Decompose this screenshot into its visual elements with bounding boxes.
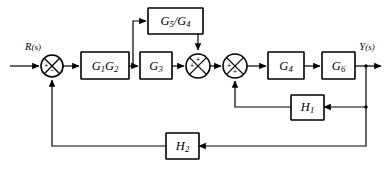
block-h2[interactable]: H2: [166, 133, 199, 159]
summing-junction-2-sign-west: +: [190, 62, 194, 69]
output-signal-label: Y(s): [359, 41, 374, 52]
io-label-layer: R(s) Y(s): [24, 41, 375, 52]
summing-junction-3-sign-west: +: [227, 62, 231, 69]
block-h1-sub: 1: [310, 105, 314, 115]
summing-junction-3[interactable]: + +: [223, 54, 247, 78]
block-g1-g2[interactable]: G1G2: [81, 52, 129, 79]
wire-h1-to-sum3: [235, 81, 291, 107]
block-g3-sub: 3: [157, 63, 162, 73]
junction-dot-g1g2-output: [131, 64, 134, 67]
wire-h2-to-sum1: [52, 80, 166, 146]
block-g4[interactable]: G4: [268, 52, 304, 79]
junction-dot-output-lower: [364, 105, 367, 108]
input-signal-label: R(s): [24, 41, 41, 52]
block-g4-label: G: [279, 58, 288, 72]
summing-junction-2-sign-north: +: [196, 56, 200, 63]
summing-junction-1-sign-south: −: [50, 67, 54, 74]
block-g5-over-g4[interactable]: G5/G4: [148, 8, 203, 34]
block-h1[interactable]: H1: [291, 95, 324, 120]
wire-output-to-h2: [199, 107, 366, 146]
summing-junction-2[interactable]: + +: [186, 54, 210, 78]
block-g6[interactable]: G6: [322, 52, 355, 79]
summing-junction-3-sign-south: +: [233, 68, 237, 75]
wire-layer: [10, 21, 381, 146]
summing-junction-1-sign-west: +: [44, 62, 48, 69]
block-g6-label: G: [332, 58, 341, 72]
block-diagram: G5/G4 G1G2 G3 G4: [0, 0, 384, 173]
block-g5-over-g4-tail: /G: [173, 14, 187, 28]
block-g3[interactable]: G3: [140, 52, 172, 79]
block-g5-over-g4-label: G: [160, 14, 169, 28]
block-diagram-canvas: G5/G4 G1G2 G3 G4: [0, 0, 384, 173]
summing-junction-1[interactable]: + −: [41, 55, 63, 77]
block-g1-g2-label: G: [92, 58, 101, 72]
block-layer: G5/G4 G1G2 G3 G4: [81, 8, 355, 159]
junction-dot-output: [364, 64, 367, 67]
block-g1-g2-tail: G: [105, 58, 114, 72]
block-g3-label: G: [149, 58, 158, 72]
